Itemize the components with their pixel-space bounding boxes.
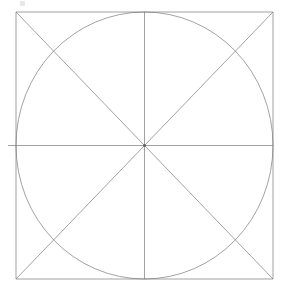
geometric-figure — [0, 0, 286, 287]
center-point — [143, 144, 146, 147]
figure-canvas — [0, 0, 286, 287]
